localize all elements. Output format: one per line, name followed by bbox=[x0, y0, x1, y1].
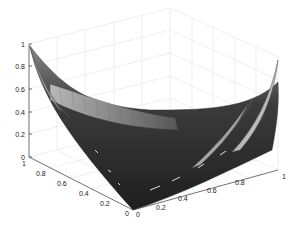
z-tick-labels: 0 0.2 0.4 0.6 0.8 1 bbox=[15, 41, 25, 161]
z-tick-0-6: 0.6 bbox=[15, 86, 25, 93]
left-tick-0-2: 0.2 bbox=[100, 200, 110, 207]
right-tick-0-8: 0.8 bbox=[235, 179, 245, 186]
z-tick-1: 1 bbox=[21, 41, 25, 48]
left-tick-1: 1 bbox=[22, 160, 26, 167]
left-tick-0-6: 0.6 bbox=[57, 180, 67, 187]
right-tick-1: 1 bbox=[282, 173, 286, 180]
surface-plot: 0 0.2 0.4 0.6 0.8 1 1 0.8 0.6 0.4 0.2 0 … bbox=[0, 0, 296, 228]
right-tick-0-4: 0.4 bbox=[178, 195, 188, 202]
right-tick-0: 0 bbox=[136, 211, 140, 218]
right-tick-0-2: 0.2 bbox=[156, 204, 166, 211]
right-tick-0-6: 0.6 bbox=[207, 187, 217, 194]
z-tick-0-2: 0.2 bbox=[15, 131, 25, 138]
left-tick-0: 0 bbox=[125, 210, 129, 217]
left-tick-0-4: 0.4 bbox=[79, 190, 89, 197]
left-tick-0-8: 0.8 bbox=[36, 170, 46, 177]
z-tick-0-8: 0.8 bbox=[15, 63, 25, 70]
z-tick-0-4: 0.4 bbox=[15, 109, 25, 116]
